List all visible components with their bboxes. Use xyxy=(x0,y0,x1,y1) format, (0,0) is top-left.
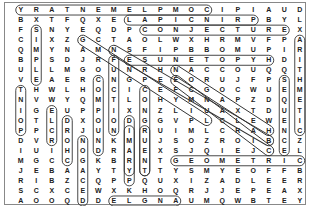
found-word-circle xyxy=(295,35,305,135)
word-search-board: YRATNEMELPMOCIPIAUDBXTFQXELAPICNIRPBYLFS… xyxy=(4,2,306,205)
found-word-circle xyxy=(62,116,72,166)
found-word-circle xyxy=(93,75,103,155)
found-word-circle xyxy=(124,126,134,186)
found-word-circle xyxy=(107,43,276,147)
found-word-circle xyxy=(109,196,181,206)
found-word-circle xyxy=(171,156,305,166)
found-word-circle xyxy=(124,116,134,176)
found-word-circles xyxy=(5,3,307,206)
found-word-circle xyxy=(140,25,290,35)
found-word-circle xyxy=(279,75,289,155)
found-word-circle xyxy=(76,33,214,127)
found-word-circle xyxy=(109,55,119,135)
found-word-circle xyxy=(140,85,150,175)
found-word-circle xyxy=(140,126,150,176)
found-word-circle xyxy=(16,5,212,15)
found-word-circle xyxy=(124,15,258,25)
found-word-circle xyxy=(78,136,88,206)
found-word-circle xyxy=(16,85,26,135)
found-word-circle xyxy=(31,25,41,85)
found-word-circle xyxy=(47,106,57,146)
